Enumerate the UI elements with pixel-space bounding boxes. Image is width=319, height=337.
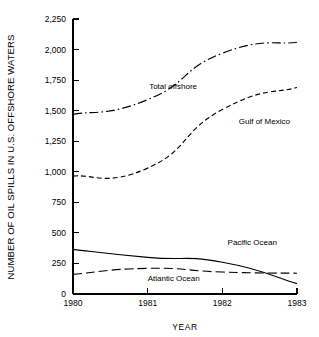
y-tick-label: 250 (52, 258, 66, 268)
y-tick-label: 750 (52, 197, 66, 207)
series-label-pacific-ocean: Pacific Ocean (228, 238, 277, 247)
series-label-atlantic-ocean: Atlantic Ocean (148, 274, 200, 283)
y-tick-label: 1,000 (45, 167, 67, 177)
series-line-gulf-of-mexico (73, 87, 297, 178)
x-tick-label: 1983 (288, 298, 307, 308)
series-label-gulf-of-mexico: Gulf of Mexico (239, 117, 291, 126)
y-tick-label: 1,750 (45, 75, 67, 85)
y-axis-group: 02505007501,0001,2501,5001,7502,0002,250 (45, 14, 79, 299)
x-axis-tick-labels: 1980198119821983 (64, 298, 307, 308)
y-tick-label: 1,500 (45, 106, 67, 116)
x-tick-label: 1980 (64, 298, 83, 308)
y-tick-label: 500 (52, 228, 66, 238)
y-tick-label: 2,250 (45, 14, 67, 24)
y-axis-ticks (73, 19, 79, 294)
x-tick-label: 1982 (213, 298, 232, 308)
y-axis-tick-labels: 02505007501,0001,2501,5001,7502,0002,250 (45, 14, 67, 299)
y-tick-label: 1,250 (45, 136, 67, 146)
x-axis-ticks (73, 288, 297, 294)
oil-spills-line-chart: 02505007501,0001,2501,5001,7502,0002,250… (0, 0, 319, 337)
y-axis-title: NUMBER OF OIL SPILLS IN U.S. OFFSHORE WA… (5, 35, 16, 280)
x-axis-title: YEAR (172, 322, 198, 332)
series-label-total-offshore: Total offshore (149, 82, 197, 91)
series-line-total-offshore (73, 42, 297, 114)
data-series-group (73, 42, 297, 283)
x-tick-label: 1981 (138, 298, 157, 308)
chart-container: 02505007501,0001,2501,5001,7502,0002,250… (0, 0, 319, 337)
y-tick-label: 2,000 (45, 45, 67, 55)
x-axis-group: 1980198119821983 (64, 288, 307, 308)
